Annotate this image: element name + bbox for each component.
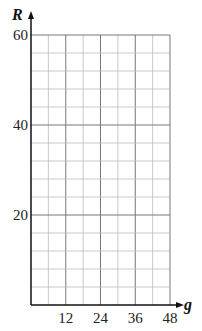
axes (28, 11, 184, 308)
y-axis-arrow-icon (28, 11, 34, 19)
x-tick-label: 12 (58, 310, 73, 326)
x-tick-label: 36 (128, 310, 144, 326)
y-tick-label: 20 (13, 207, 28, 223)
x-axis-arrow-icon (176, 302, 184, 308)
x-tick-label: 24 (93, 310, 109, 326)
x-axis-label: g (183, 296, 192, 314)
y-axis-label: R (11, 6, 23, 23)
x-tick-label: 48 (163, 310, 178, 326)
chart: 12243648204060 g R (0, 0, 202, 331)
y-tick-label: 40 (13, 117, 28, 133)
grid (31, 35, 170, 305)
y-tick-label: 60 (13, 27, 28, 43)
